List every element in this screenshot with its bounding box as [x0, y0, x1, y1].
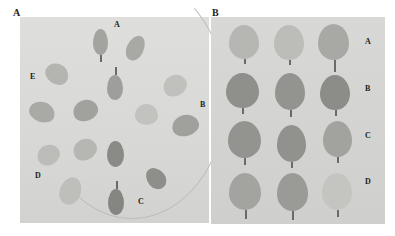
leaf-stem	[244, 59, 246, 64]
leaf	[135, 104, 158, 125]
leaf-stem	[292, 211, 294, 220]
leaf-stem	[337, 210, 339, 217]
leaf	[228, 121, 261, 158]
leaf	[229, 173, 261, 210]
leaf-stem	[116, 181, 118, 189]
leaf	[93, 29, 108, 55]
leaf-stem	[337, 157, 339, 163]
leaf-stem	[244, 158, 246, 165]
row-label-a: A	[365, 37, 371, 46]
leaf	[108, 189, 124, 215]
leaf-stem	[291, 162, 293, 168]
group-label-a: A	[114, 20, 120, 29]
panel-b-photo: A B C D	[211, 17, 385, 224]
leaf	[322, 173, 352, 210]
group-label-c: C	[138, 197, 144, 206]
leaf	[277, 125, 306, 162]
group-label-d: D	[35, 171, 41, 180]
leaf	[226, 73, 259, 108]
leaf	[277, 173, 308, 211]
leaf-stem	[242, 108, 244, 114]
group-label-e: E	[30, 72, 35, 81]
leaf	[320, 75, 350, 110]
leaf-stem	[245, 210, 247, 219]
leaf	[107, 141, 124, 167]
leaf	[275, 73, 305, 110]
panel-a-photo: A B C D E	[20, 17, 209, 223]
row-label-d: D	[365, 177, 371, 186]
row-label-c: C	[365, 131, 371, 140]
group-label-b: B	[200, 100, 205, 109]
leaf	[229, 25, 259, 59]
leaf-stem	[289, 60, 291, 65]
leaf	[323, 121, 352, 157]
row-label-b: B	[365, 84, 370, 93]
leaf-stem	[100, 55, 102, 62]
leaf-stem	[115, 67, 117, 75]
leaf	[318, 24, 349, 60]
leaf	[107, 75, 123, 100]
leaf	[274, 25, 304, 60]
leaf-stem	[290, 110, 292, 117]
leaf-stem	[334, 60, 336, 72]
leaf-stem	[335, 110, 337, 116]
